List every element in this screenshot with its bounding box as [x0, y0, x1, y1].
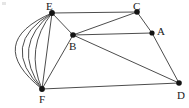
- edge-EC: [52, 12, 137, 13]
- vertex-node-B[interactable]: [70, 32, 76, 38]
- vertex-node-A[interactable]: [149, 30, 154, 35]
- vertex-label-E: E: [46, 1, 53, 12]
- edge-arc-EF-4: [15, 13, 52, 89]
- vertex-label-F: F: [39, 94, 45, 105]
- edge-EB: [52, 13, 73, 35]
- graph-canvas: [0, 0, 189, 108]
- vertex-label-C: C: [133, 1, 140, 12]
- edge-BD: [73, 35, 179, 83]
- edge-BC: [73, 12, 137, 35]
- edge-CA: [137, 12, 152, 33]
- vertex-node-F[interactable]: [39, 86, 45, 92]
- vertex-label-A: A: [157, 26, 165, 37]
- edge-BA: [73, 33, 152, 35]
- edge-layer: [15, 12, 179, 89]
- edge-EF: [42, 13, 52, 89]
- vertex-node-D[interactable]: [176, 80, 182, 86]
- edge-AD: [152, 33, 179, 83]
- graph-figure: ABCDEF: [0, 0, 189, 108]
- vertex-label-B: B: [69, 41, 76, 52]
- edge-FD: [42, 83, 179, 89]
- vertex-label-D: D: [177, 90, 185, 101]
